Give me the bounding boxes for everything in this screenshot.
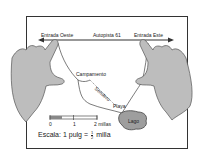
scale-fraction: 1 2 [91,131,93,140]
scale-tick-2: 2 millas [94,122,111,127]
label-beach: Playa [113,104,126,109]
label-highway: Autopista 61 [93,33,121,38]
left-hand-icon [11,40,64,122]
scale-prefix: Escala: 1 pulg = [38,131,88,138]
scale-bar [50,115,97,120]
scale-tick-1: 1 [73,122,76,127]
label-west-entrance: Entrada Oeste [41,33,73,38]
fraction-denominator: 2 [91,136,93,140]
label-camp: Campamento [76,72,106,77]
scale-unit: milla [96,131,110,138]
measuring-string [58,43,148,113]
label-lake: Lago [128,119,139,124]
scale-statement: Escala: 1 pulg = 1 2 milla [38,131,111,140]
scale-tick-0: 0 [49,122,52,127]
right-hand-icon [136,40,192,120]
label-east-entrance: Entrada Este [134,33,163,38]
camp-route [78,80,90,82]
highway-arrow [38,38,174,43]
